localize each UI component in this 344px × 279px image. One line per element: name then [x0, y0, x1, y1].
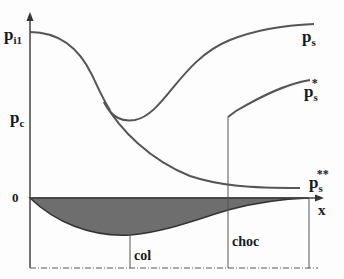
nozzle-profile-fill — [30, 198, 309, 235]
label-pi1: pi1 — [4, 25, 22, 46]
label-pc: pc — [10, 108, 24, 129]
label-x: x — [318, 202, 326, 218]
pressure-diagram: pi1 pc 0 x ps ps* ps** col choc — [0, 0, 344, 279]
curve-ps — [104, 24, 314, 120]
label-choc: choc — [232, 234, 259, 249]
label-ps-star2: ps** — [309, 167, 329, 194]
label-col: col — [134, 248, 151, 263]
curve-ps-star — [228, 80, 310, 117]
y-axis-arrow-icon — [27, 12, 34, 21]
diagram-canvas: pi1 pc 0 x ps ps* ps** col choc — [0, 0, 344, 279]
curve-ps-star2 — [104, 102, 300, 188]
curve-upstream — [30, 32, 110, 110]
label-origin: 0 — [12, 190, 19, 205]
label-ps: ps — [302, 27, 316, 48]
x-axis-arrow-icon — [315, 195, 324, 202]
